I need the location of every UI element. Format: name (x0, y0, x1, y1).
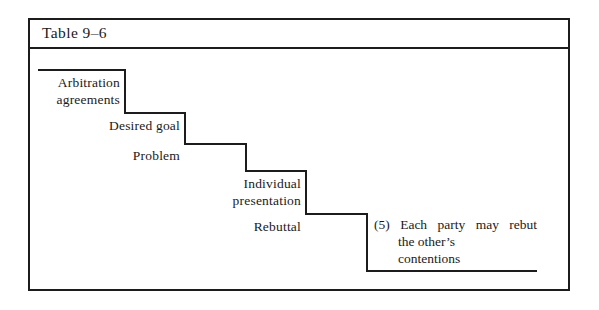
step-4-riser (305, 170, 307, 215)
step-2-tread-rule (124, 112, 186, 114)
step-5-tread-rule (305, 213, 368, 215)
table-caption: Table 9–6 (42, 24, 107, 42)
step-5-riser (366, 213, 368, 272)
note-block: (5) Each party may rebut the other’s con… (374, 216, 537, 267)
step-3-riser (245, 143, 247, 172)
caption-divider-rule (28, 47, 570, 49)
step-1-riser (124, 69, 126, 114)
step-label-arbitration-agreements: Arbitration agreements (22, 74, 120, 108)
step-1-top-rule (38, 69, 126, 71)
step-3-tread-rule (184, 143, 247, 145)
note-line-1-text: Each party may rebut (400, 217, 537, 232)
step-label-problem: Problem (122, 147, 180, 164)
step-5-base-rule (366, 270, 537, 272)
step-label-desired-goal: Desired goal (82, 117, 180, 134)
table-figure: Table 9–6 Arbitration agreements Desired… (0, 0, 599, 310)
step-2-riser (184, 112, 186, 145)
note-line-1: (5) Each party may rebut (374, 216, 537, 233)
note-line-3: contentions (374, 250, 537, 267)
note-marker: (5) (374, 217, 390, 232)
step-label-rebuttal: Rebuttal (234, 218, 301, 235)
step-4-tread-rule (245, 170, 307, 172)
step-label-individual-presentation: Individual presentation (203, 175, 301, 209)
note-line-2: the other’s (374, 233, 537, 250)
